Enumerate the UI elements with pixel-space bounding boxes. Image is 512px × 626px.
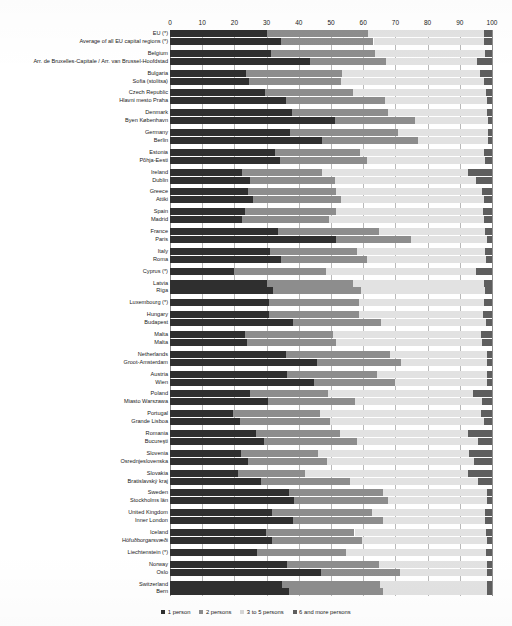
stacked-bar bbox=[170, 489, 492, 496]
stacked-bar bbox=[170, 78, 492, 85]
legend-swatch-icon bbox=[161, 610, 165, 614]
bar-segment-1 bbox=[170, 489, 289, 496]
bar-segment-2 bbox=[245, 331, 333, 338]
stacked-bar bbox=[170, 359, 492, 366]
bar-segment-1 bbox=[170, 287, 273, 294]
bar-segment-2 bbox=[294, 497, 387, 504]
stacked-bar bbox=[170, 517, 492, 524]
bar-segment-1 bbox=[170, 268, 234, 275]
row-label: Netherlands bbox=[0, 350, 168, 358]
row-label: Austria bbox=[0, 370, 168, 378]
chart-row: Stockholms län bbox=[0, 497, 512, 504]
row-label: Iceland bbox=[0, 528, 168, 536]
bar-segment-2 bbox=[272, 537, 362, 544]
x-axis-tick-0: 0 bbox=[168, 18, 172, 27]
row-label: Berlin bbox=[0, 136, 168, 144]
x-axis-tick-30: 30 bbox=[263, 18, 270, 27]
bar-segment-1 bbox=[170, 208, 245, 215]
bar-segment-4 bbox=[487, 379, 492, 386]
stacked-bar bbox=[170, 390, 492, 397]
bar-segment-2 bbox=[293, 517, 383, 524]
bar-segment-3 bbox=[383, 517, 484, 524]
bar-segment-4 bbox=[487, 351, 492, 358]
bar-segment-4 bbox=[484, 299, 492, 306]
bar-segment-2 bbox=[335, 117, 415, 124]
legend-label: 3 to 5 persons bbox=[247, 608, 284, 616]
row-label: Germany bbox=[0, 128, 168, 136]
stacked-bar bbox=[170, 537, 492, 544]
bar-segment-2 bbox=[249, 78, 341, 85]
stacked-bar bbox=[170, 311, 492, 318]
row-label: Miasto Warszawa bbox=[0, 397, 168, 405]
row-label: Arr. de Bruxelles-Capitale / Arr. van Br… bbox=[0, 57, 168, 65]
bar-segment-4 bbox=[484, 149, 492, 156]
row-label: France bbox=[0, 227, 168, 235]
chart-row: Cyprus (*) bbox=[0, 268, 512, 275]
stacked-bar bbox=[170, 339, 492, 346]
bar-segment-3 bbox=[381, 319, 486, 326]
bar-segment-3 bbox=[359, 299, 484, 306]
chart-row: Berlin bbox=[0, 137, 512, 144]
bar-segment-4 bbox=[485, 50, 492, 57]
bar-segment-2 bbox=[281, 38, 373, 45]
stacked-bar bbox=[170, 319, 492, 326]
chart-row: Grande Lisboa bbox=[0, 418, 512, 425]
bar-segment-4 bbox=[484, 280, 492, 287]
stacked-bar bbox=[170, 351, 492, 358]
row-label: Bern bbox=[0, 587, 168, 595]
bar-segment-4 bbox=[474, 458, 492, 465]
bar-segment-2 bbox=[322, 137, 418, 144]
bar-segment-1 bbox=[170, 470, 238, 477]
chart-row: Bratislavský kraj bbox=[0, 478, 512, 485]
bar-segment-3 bbox=[372, 509, 485, 516]
row-label: Romania bbox=[0, 429, 168, 437]
bar-segment-4 bbox=[484, 216, 492, 223]
stacked-bar bbox=[170, 38, 492, 45]
bar-segment-3 bbox=[350, 478, 478, 485]
bar-segment-4 bbox=[487, 97, 492, 104]
bar-segment-2 bbox=[253, 196, 341, 203]
stacked-bar bbox=[170, 561, 492, 568]
chart-row: Dublin bbox=[0, 177, 512, 184]
row-label: Rīga bbox=[0, 286, 168, 294]
bar-segment-3 bbox=[353, 280, 484, 287]
bar-segment-4 bbox=[487, 371, 492, 378]
bar-segment-4 bbox=[468, 169, 492, 176]
x-axis-tick-40: 40 bbox=[295, 18, 302, 27]
row-label: Sweden bbox=[0, 488, 168, 496]
bar-segment-1 bbox=[170, 478, 261, 485]
bar-segment-2 bbox=[287, 371, 377, 378]
row-label: Höfuðborgarsvæði bbox=[0, 536, 168, 544]
row-label: Bulgaria bbox=[0, 69, 168, 77]
stacked-bar bbox=[170, 137, 492, 144]
bar-segment-1 bbox=[170, 97, 286, 104]
bar-segment-2 bbox=[242, 169, 322, 176]
bar-segment-3 bbox=[327, 458, 473, 465]
bar-segment-3 bbox=[336, 188, 483, 195]
stacked-bar bbox=[170, 379, 492, 386]
bar-segment-1 bbox=[170, 137, 322, 144]
stacked-bar bbox=[170, 371, 492, 378]
bar-segment-4 bbox=[483, 208, 492, 215]
row-label: Norway bbox=[0, 560, 168, 568]
row-label: Luxembourg (*) bbox=[0, 298, 168, 306]
bar-segment-1 bbox=[170, 196, 253, 203]
row-label: Osrednjeslovenska bbox=[0, 457, 168, 465]
bar-segment-2 bbox=[281, 256, 367, 263]
stacked-bar bbox=[170, 177, 492, 184]
x-axis-tick-80: 80 bbox=[424, 18, 431, 27]
stacked-bar bbox=[170, 280, 492, 287]
stacked-bar bbox=[170, 509, 492, 516]
bar-segment-2 bbox=[264, 438, 356, 445]
chart-row: Average of all EU capital regions (*) bbox=[0, 38, 512, 45]
row-label: Bucureşti bbox=[0, 437, 168, 445]
bar-segment-4 bbox=[478, 438, 492, 445]
bar-segment-4 bbox=[487, 569, 492, 576]
stacked-bar bbox=[170, 216, 492, 223]
chart-rows: EU (*)Average of all EU capital regions … bbox=[0, 30, 512, 596]
bar-segment-1 bbox=[170, 188, 248, 195]
row-label: Belgium bbox=[0, 49, 168, 57]
bar-segment-1 bbox=[170, 517, 293, 524]
bar-segment-4 bbox=[482, 188, 492, 195]
bar-segment-4 bbox=[484, 30, 492, 37]
